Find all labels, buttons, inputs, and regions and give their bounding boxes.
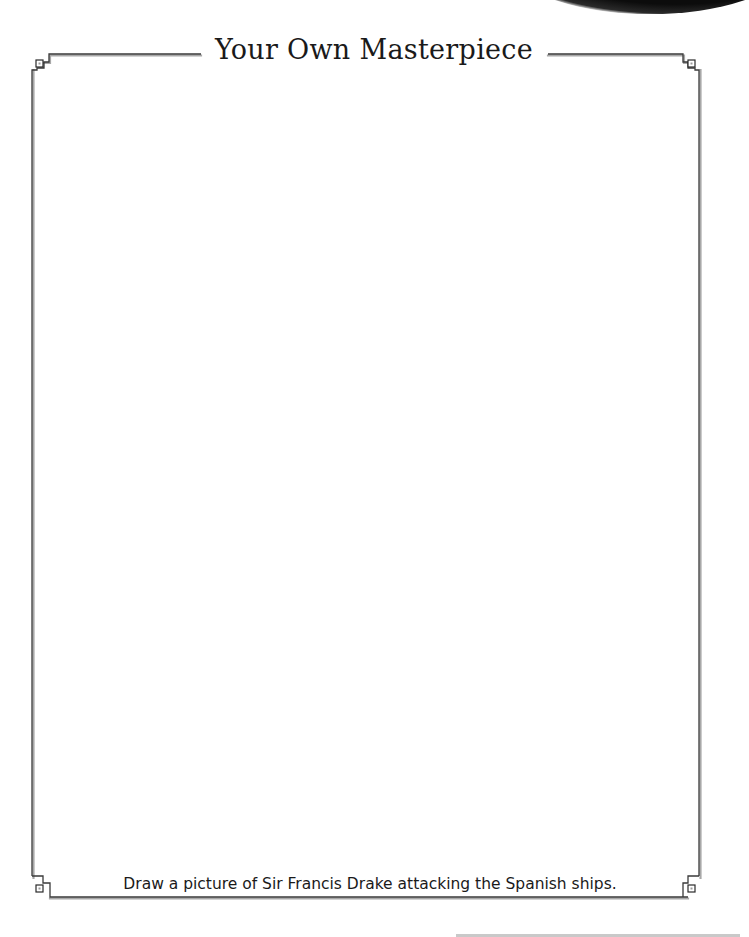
page-title: Your Own Masterpiece	[200, 30, 548, 70]
instruction-caption: Draw a picture of Sir Francis Drake atta…	[100, 873, 640, 895]
drawing-area[interactable]	[40, 72, 692, 867]
